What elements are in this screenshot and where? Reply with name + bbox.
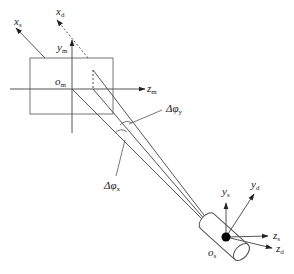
z-d-label: zd	[275, 242, 284, 256]
x-s-label: xs	[13, 15, 22, 29]
o-m-label: om	[55, 75, 67, 89]
y-m-label: ym	[56, 41, 68, 55]
sensor-origin-dot	[222, 233, 231, 242]
angle-arc-x	[115, 130, 127, 133]
x-d-label: xd	[55, 5, 65, 19]
o-s-label: os	[208, 246, 217, 260]
dphi-y-label: Δφy	[165, 102, 183, 116]
z-m-label: zm	[146, 82, 157, 96]
y-d-axis	[226, 194, 254, 237]
beam-line-origin	[72, 89, 205, 222]
y-s-label: ys	[221, 185, 230, 199]
dphi-y-leader	[129, 110, 162, 124]
z-s-label: zs	[272, 229, 280, 243]
dphi-x-leader	[116, 140, 125, 176]
x-s-axis	[16, 28, 45, 58]
beam-line-mid	[93, 89, 206, 221]
y-d-label: yd	[250, 178, 260, 192]
coordinate-diagram: xs xd ym om zm Δφy Δφx ys yd zs zd os	[0, 0, 294, 274]
dphi-x-label: Δφx	[103, 179, 121, 193]
